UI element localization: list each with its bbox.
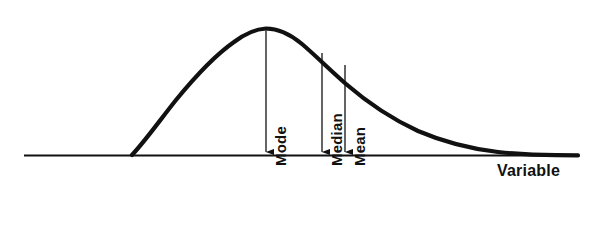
distribution-figure: Mode Median Mean Variable bbox=[0, 0, 603, 234]
marker-label-median: Median bbox=[329, 113, 344, 166]
distribution-plot bbox=[0, 0, 603, 234]
axis-label-variable: Variable bbox=[497, 162, 560, 180]
marker-label-mean: Mean bbox=[352, 127, 367, 166]
marker-label-mode: Mode bbox=[273, 126, 288, 166]
